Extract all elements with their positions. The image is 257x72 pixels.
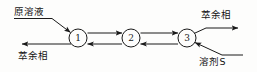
stream-extract-out: [194, 28, 238, 34]
extraction-flow-diagram: 1 2 3 原溶液 萃余相 萃余相 溶剂S: [0, 0, 257, 72]
stage-2-label: 2: [128, 33, 134, 43]
stage-node-1: 1: [69, 29, 87, 47]
stage-1-label: 1: [75, 33, 81, 43]
feed-stream-label: 原溶液: [14, 6, 45, 17]
stage-3-label: 3: [184, 33, 190, 43]
stream-feed: [14, 19, 71, 33]
stage-node-2: 2: [122, 29, 140, 47]
stream-solvent-in: [195, 43, 243, 56]
extract-stream-label: 萃余相: [201, 9, 232, 20]
stage-node-3: 3: [178, 29, 196, 47]
raffinate-stream-label: 萃余相: [18, 50, 49, 61]
solvent-stream-label: 溶剂S: [199, 56, 226, 67]
